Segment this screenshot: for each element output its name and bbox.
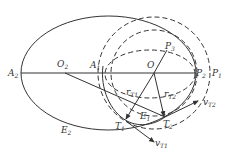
vector-v-t2 bbox=[165, 101, 198, 117]
label-a2: A2 bbox=[8, 69, 18, 80]
label-a1: A1 bbox=[90, 61, 100, 72]
label-p3: P3 bbox=[165, 42, 175, 53]
label-p2: P2 bbox=[196, 69, 206, 80]
label-p1: P1 bbox=[212, 69, 222, 80]
label-r-t1: rT1 bbox=[126, 88, 138, 99]
label-o: O bbox=[147, 61, 154, 70]
label-t1: T1 bbox=[115, 122, 125, 133]
label-e2: E2 bbox=[61, 126, 71, 137]
label-t2: T2 bbox=[163, 120, 173, 131]
orbit-diagram: A2 O2 A1 O P3 P2 P1 rT1 rT2 E1 T1 T2 E2 … bbox=[0, 0, 233, 160]
label-e1: E1 bbox=[140, 112, 150, 123]
orbit-diagram-graphic bbox=[0, 0, 233, 160]
label-v-t1: vT1 bbox=[155, 139, 168, 150]
label-o2: O2 bbox=[57, 60, 68, 71]
dashed-ellipse-inner bbox=[105, 50, 195, 98]
label-v-t2: vT2 bbox=[203, 98, 216, 109]
vector-r-t2 bbox=[154, 73, 164, 116]
line-o-p3 bbox=[154, 50, 167, 73]
label-r-t2: rT2 bbox=[164, 90, 176, 101]
